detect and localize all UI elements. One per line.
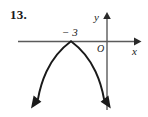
x-axis — [18, 38, 142, 46]
x-axis-label: x — [132, 46, 137, 57]
coordinate-plot — [0, 0, 148, 117]
parabola-path — [38, 41, 104, 99]
math-figure: 13. y x O − 3 — [0, 0, 148, 117]
y-axis-arrowhead — [103, 12, 111, 19]
origin-label: O — [97, 44, 104, 54]
parabola-right-arrowhead — [101, 96, 111, 109]
parabola-left-arrowhead — [31, 96, 41, 109]
y-axis — [103, 12, 111, 110]
y-axis-label: y — [94, 12, 99, 23]
x-intercept-label: − 3 — [62, 27, 78, 38]
